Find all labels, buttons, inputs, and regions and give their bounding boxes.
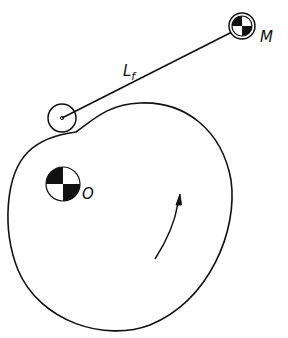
diagram-canvas: M Lf O bbox=[0, 0, 288, 338]
cam-profile bbox=[8, 103, 232, 331]
center-of-mass-m-icon bbox=[229, 13, 255, 39]
link-lf bbox=[62, 32, 232, 118]
label-m: M bbox=[260, 28, 273, 46]
label-lf: Lf bbox=[123, 62, 137, 83]
label-o: O bbox=[82, 185, 94, 203]
center-of-mass-o-icon bbox=[46, 167, 80, 201]
rotation-arrow-icon bbox=[155, 194, 182, 259]
